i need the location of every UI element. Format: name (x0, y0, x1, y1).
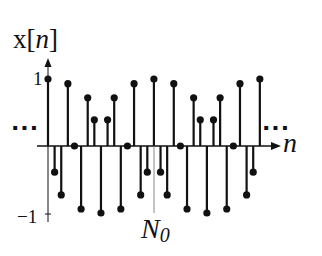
stem-marker (150, 75, 157, 82)
stem-marker (78, 205, 85, 212)
stem-marker (177, 142, 184, 149)
x-axis-arrow-icon (271, 142, 281, 150)
stem-marker (111, 94, 118, 101)
stem-marker (137, 191, 144, 198)
stem (97, 146, 104, 217)
stem (190, 94, 197, 146)
stem-marker (197, 116, 204, 123)
stem-marker (117, 205, 124, 212)
stem (117, 146, 124, 213)
stem-marker (230, 142, 237, 149)
stem-marker (203, 209, 210, 216)
stem (197, 116, 204, 146)
stem-marker (91, 116, 98, 123)
stem (51, 146, 58, 176)
continuation-right: ··· (262, 117, 290, 139)
stem-marker (210, 116, 217, 123)
stem-marker (190, 94, 197, 101)
stem-marker (97, 209, 104, 216)
stem-marker (71, 142, 78, 149)
stem-marker (144, 169, 151, 176)
stem (130, 80, 137, 146)
y-tick-1: 1 (33, 69, 43, 88)
y-axis-label: x[n] (13, 26, 58, 53)
stem (210, 116, 217, 146)
stem (111, 94, 118, 146)
stem (71, 142, 78, 149)
n0-marker-label: N0 (141, 215, 170, 245)
stem (230, 142, 237, 149)
stem-marker (51, 169, 58, 176)
stem (91, 116, 98, 146)
stem (58, 146, 65, 199)
stem (183, 146, 190, 213)
stem (170, 80, 177, 146)
stem-marker (250, 169, 257, 176)
stem-marker (64, 80, 71, 87)
stem (217, 94, 224, 146)
y-tick-minus-1: −1 (17, 207, 37, 226)
stem (203, 146, 210, 217)
stem-marker (157, 169, 164, 176)
stem (144, 146, 151, 176)
stem-marker (124, 142, 131, 149)
stem (157, 146, 164, 176)
stem (150, 75, 157, 146)
stem (177, 142, 184, 149)
continuation-left: ··· (11, 117, 39, 139)
stem-marker (183, 205, 190, 212)
stem (78, 146, 85, 213)
stem-marker (44, 75, 51, 82)
stem-marker (236, 80, 243, 87)
stem-marker (223, 205, 230, 212)
stem (44, 75, 51, 146)
stem-marker (130, 80, 137, 87)
stem-marker (104, 116, 111, 123)
stem (64, 80, 71, 146)
stem (84, 94, 91, 146)
stem-marker (58, 191, 65, 198)
stem (124, 142, 131, 149)
stem (137, 146, 144, 199)
stem-marker (84, 94, 91, 101)
stem (243, 146, 250, 199)
stem-marker (170, 80, 177, 87)
stem-marker (256, 75, 263, 82)
y-axis-arrow-icon (45, 58, 52, 67)
stem-marker (217, 94, 224, 101)
stem (236, 80, 243, 146)
stem (104, 116, 111, 146)
stem-marker (164, 191, 171, 198)
stem (223, 146, 230, 213)
stem (164, 146, 171, 199)
stem (250, 146, 257, 176)
stem-marker (243, 191, 250, 198)
